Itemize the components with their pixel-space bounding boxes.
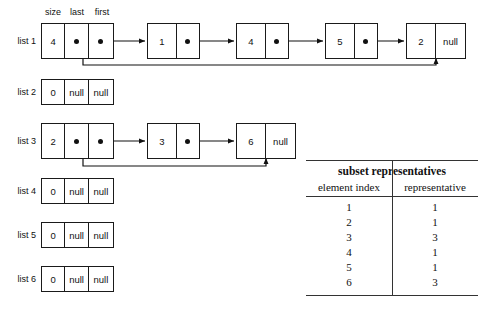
node-value-cell: 4 bbox=[237, 24, 266, 58]
caption-size: size bbox=[41, 7, 65, 17]
node-list-1-3: 2 null bbox=[406, 23, 466, 59]
table-cell-representative: 1 bbox=[392, 216, 478, 228]
list-1-first-cell bbox=[89, 24, 113, 58]
table-cell-index: 5 bbox=[306, 261, 392, 273]
node-value-cell: 3 bbox=[148, 124, 177, 158]
table-column-header-representative: representative bbox=[392, 181, 478, 193]
node-next-cell bbox=[177, 124, 199, 158]
pointer-dot-icon bbox=[363, 39, 368, 44]
node-value-cell: 5 bbox=[326, 24, 355, 58]
list-3-first-cell bbox=[89, 124, 113, 158]
list-header-list-6: 0 null null bbox=[41, 266, 114, 292]
list-1-size-cell: 4 bbox=[42, 24, 65, 58]
node-list-1-2: 5 bbox=[325, 23, 378, 59]
node-next-cell bbox=[266, 24, 288, 58]
list-header-list-5: 0 null null bbox=[41, 222, 114, 248]
node-next-cell: null bbox=[436, 24, 465, 58]
caption-last: last bbox=[65, 7, 89, 17]
subset-representatives-table: subset representatives element index rep… bbox=[306, 160, 478, 297]
table-cell-representative: 1 bbox=[392, 246, 478, 258]
table-cell-representative: 3 bbox=[392, 276, 478, 288]
pointer-dot-icon bbox=[98, 39, 103, 44]
list-header-list-2: 0 null null bbox=[41, 79, 114, 105]
list-1-last-cell bbox=[65, 24, 88, 58]
list-3-last-cell bbox=[65, 124, 88, 158]
pointer-dot-icon bbox=[74, 139, 79, 144]
node-next-cell bbox=[177, 24, 199, 58]
list-header-list-4: 0 null null bbox=[41, 178, 114, 204]
list-header-list-1: 4 bbox=[41, 23, 114, 59]
node-list-3-0: 3 bbox=[147, 123, 200, 159]
node-list-3-1: 6 null bbox=[236, 123, 296, 159]
list-label-list-2: list 2 bbox=[2, 87, 36, 97]
node-next-cell: null bbox=[266, 124, 295, 158]
table-cell-representative: 3 bbox=[392, 231, 478, 243]
table-cell-representative: 1 bbox=[392, 261, 478, 273]
list-label-list-4: list 4 bbox=[2, 186, 36, 196]
node-next-cell bbox=[355, 24, 377, 58]
pointer-dot-icon bbox=[185, 139, 190, 144]
table-cell-index: 1 bbox=[306, 201, 392, 213]
list-5-size-cell: 0 bbox=[42, 223, 65, 247]
list-2-last-cell: null bbox=[65, 80, 88, 104]
list-label-list-6: list 6 bbox=[2, 274, 36, 284]
list-label-list-1: list 1 bbox=[2, 36, 36, 46]
node-list-1-1: 4 bbox=[236, 23, 289, 59]
node-value-cell: 1 bbox=[148, 24, 177, 58]
list-label-list-3: list 3 bbox=[2, 136, 36, 146]
list-label-list-5: list 5 bbox=[2, 230, 36, 240]
node-value-cell: 2 bbox=[407, 24, 436, 58]
table-cell-index: 3 bbox=[306, 231, 392, 243]
node-value-cell: 6 bbox=[237, 124, 266, 158]
node-list-1-0: 1 bbox=[147, 23, 200, 59]
list-header-list-3: 2 bbox=[41, 123, 114, 159]
list-2-size-cell: 0 bbox=[42, 80, 65, 104]
table-column-header-element-index: element index bbox=[306, 181, 392, 193]
table-cell-index: 2 bbox=[306, 216, 392, 228]
table-cell-index: 6 bbox=[306, 276, 392, 288]
list-5-last-cell: null bbox=[65, 223, 88, 247]
list-4-size-cell: 0 bbox=[42, 179, 65, 203]
pointer-dot-icon bbox=[74, 39, 79, 44]
list-6-first-cell: null bbox=[89, 267, 113, 291]
caption-first: first bbox=[89, 7, 115, 17]
pointer-dot-icon bbox=[185, 39, 190, 44]
pointer-dot-icon bbox=[274, 39, 279, 44]
list-6-size-cell: 0 bbox=[42, 267, 65, 291]
list-5-first-cell: null bbox=[89, 223, 113, 247]
list-4-first-cell: null bbox=[89, 179, 113, 203]
table-cell-representative: 1 bbox=[392, 201, 478, 213]
list-3-size-cell: 2 bbox=[42, 124, 65, 158]
table-cell-index: 4 bbox=[306, 246, 392, 258]
list-2-first-cell: null bbox=[89, 80, 113, 104]
list-4-last-cell: null bbox=[65, 179, 88, 203]
list-6-last-cell: null bbox=[65, 267, 88, 291]
table-bottom-rule bbox=[306, 295, 478, 296]
pointer-dot-icon bbox=[98, 139, 103, 144]
